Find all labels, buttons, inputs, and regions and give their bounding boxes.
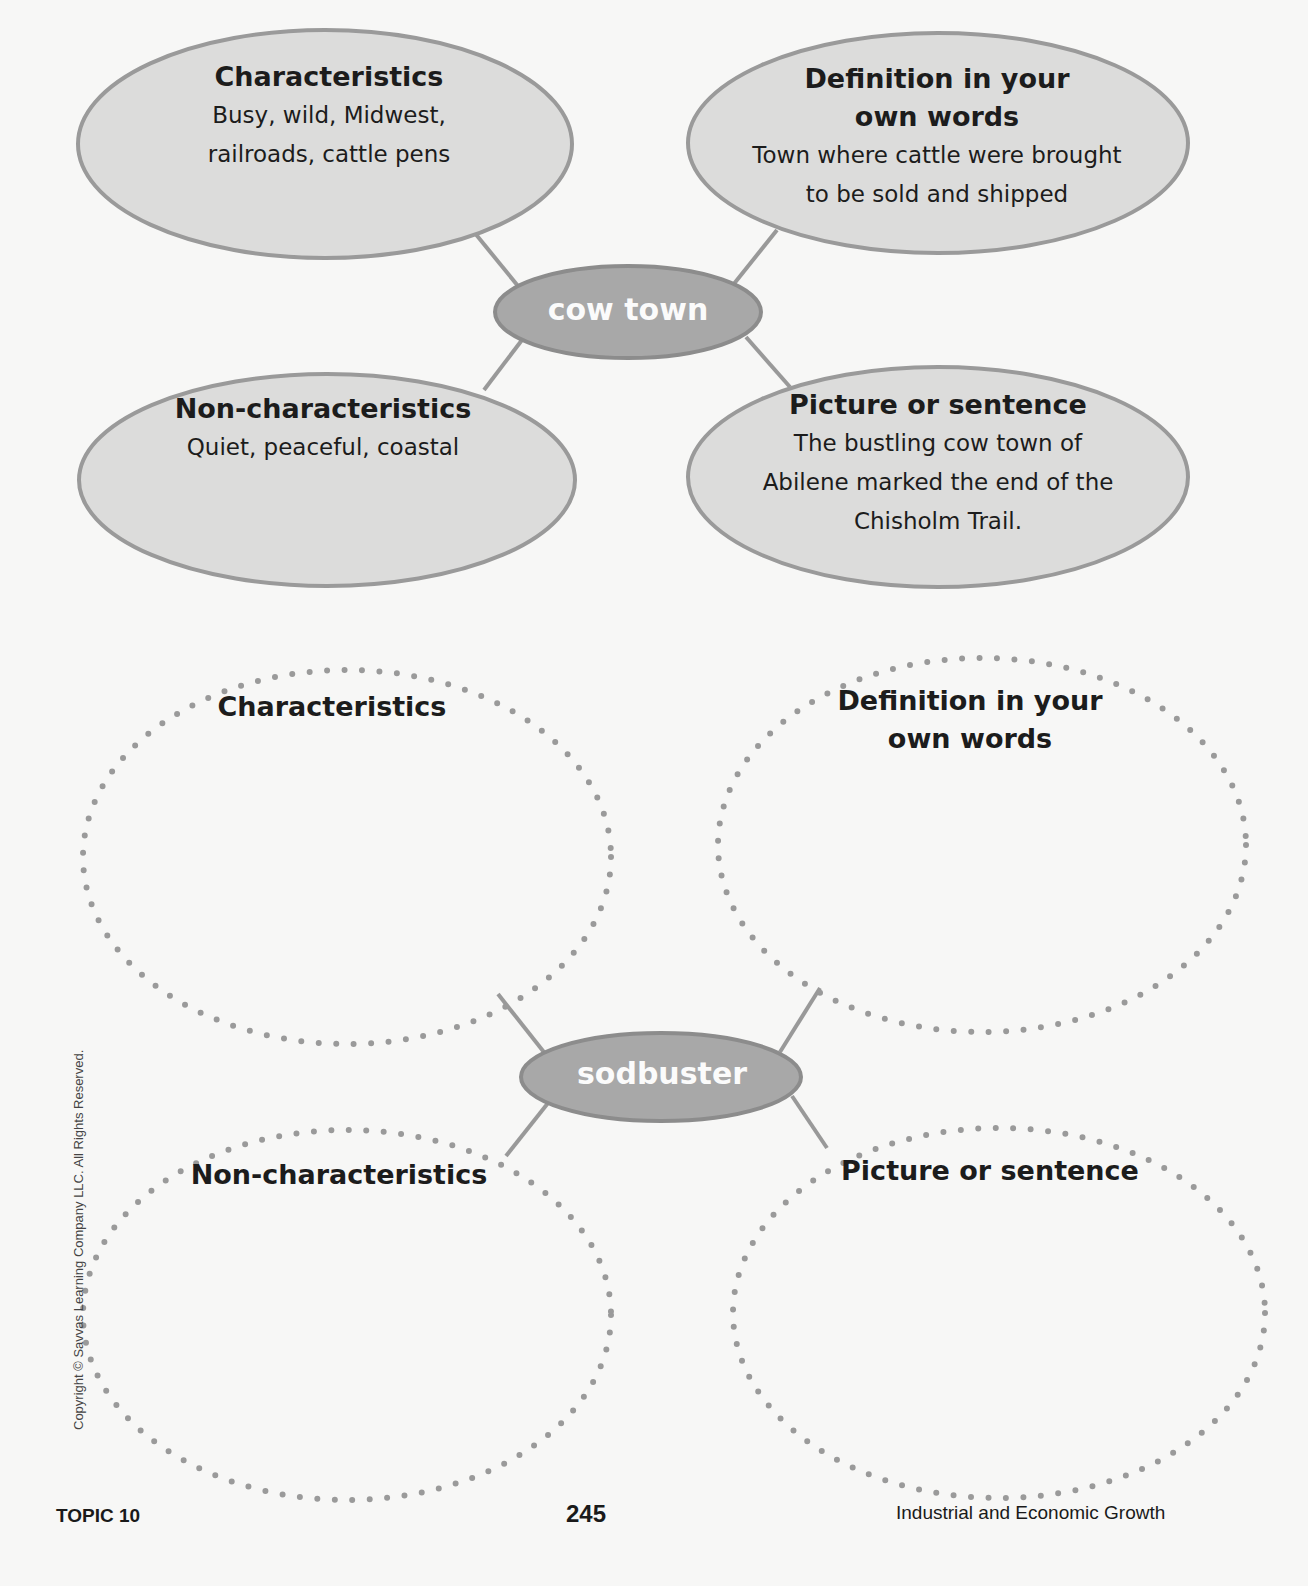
definition-heading: own words bbox=[837, 720, 1102, 758]
non-characteristics-group: Non-characteristics Quiet, peaceful, coa… bbox=[175, 390, 472, 467]
non-characteristics-text-line: Quiet, peaceful, coastal bbox=[175, 428, 472, 467]
characteristics-answer-area[interactable] bbox=[83, 670, 611, 1044]
non-characteristics-heading: Non-characteristics bbox=[191, 1156, 488, 1194]
definition-heading: Definition in your bbox=[837, 682, 1102, 720]
center-term: sodbuster bbox=[577, 1056, 747, 1091]
definition-heading: Definition in your bbox=[752, 60, 1121, 98]
picture-sentence-text-line: Abilene marked the end of the bbox=[763, 463, 1114, 502]
definition-group: Definition in your own words Town where … bbox=[752, 60, 1121, 214]
definition-heading-group: Definition in your own words bbox=[837, 682, 1102, 758]
characteristics-group: Characteristics Busy, wild, Midwest, rai… bbox=[208, 58, 451, 174]
definition-text-line: Town where cattle were brought bbox=[752, 136, 1121, 175]
definition-heading: own words bbox=[752, 98, 1121, 136]
topic-label: TOPIC 10 bbox=[56, 1505, 140, 1527]
picture-sentence-group: Picture or sentence The bustling cow tow… bbox=[763, 386, 1114, 541]
definition-text-line: to be sold and shipped bbox=[752, 175, 1121, 214]
picture-sentence-heading: Picture or sentence bbox=[841, 1152, 1139, 1190]
concept-map-graphics bbox=[0, 0, 1308, 1586]
picture-sentence-text-line: Chisholm Trail. bbox=[763, 502, 1114, 541]
characteristics-heading: Characteristics bbox=[208, 58, 451, 96]
characteristics-text-line: Busy, wild, Midwest, bbox=[208, 96, 451, 135]
picture-sentence-heading: Picture or sentence bbox=[763, 386, 1114, 424]
picture-sentence-text-line: The bustling cow town of bbox=[763, 424, 1114, 463]
copyright-notice: Copyright © Savvas Learning Company LLC.… bbox=[71, 1050, 86, 1430]
characteristics-text-line: railroads, cattle pens bbox=[208, 135, 451, 174]
non-characteristics-heading: Non-characteristics bbox=[175, 390, 472, 428]
center-term: cow town bbox=[548, 292, 709, 327]
characteristics-heading: Characteristics bbox=[218, 688, 447, 726]
page-number: 245 bbox=[566, 1500, 606, 1528]
chapter-title: Industrial and Economic Growth bbox=[896, 1502, 1165, 1524]
